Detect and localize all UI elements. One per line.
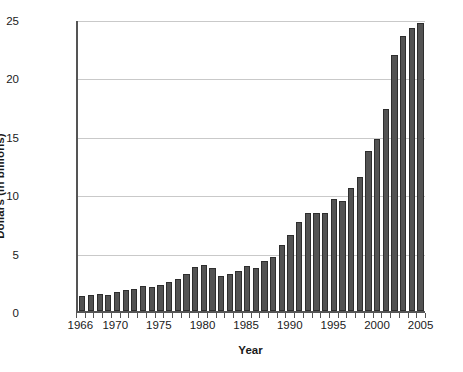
x-tick-label-2005: 2005 — [408, 319, 434, 331]
bar-cell — [173, 21, 182, 311]
bar-1990 — [287, 235, 293, 312]
x-tick-mark — [85, 313, 86, 318]
bar-cell — [338, 21, 347, 311]
bar-1979 — [192, 267, 198, 311]
y-tick-label-5: 5 — [0, 249, 19, 261]
bar-1995 — [331, 199, 337, 311]
x-tick-label-1966: 1966 — [68, 319, 94, 331]
x-tick-mark — [93, 313, 94, 318]
bar-1972 — [131, 289, 137, 311]
bar-1969 — [105, 295, 111, 311]
bar-cell — [286, 21, 295, 311]
bar-1974 — [149, 287, 155, 311]
bar-cell — [399, 21, 408, 311]
bar-2004 — [409, 28, 415, 311]
x-tick-mark — [399, 313, 400, 318]
bar-cell — [356, 21, 365, 311]
x-tick-mark — [346, 313, 347, 318]
bar-1980 — [201, 265, 207, 311]
x-tick-mark — [76, 313, 77, 318]
bar-1966 — [79, 296, 85, 311]
bar-2005 — [417, 23, 423, 311]
x-tick-label-1970: 1970 — [102, 319, 128, 331]
bar-1985 — [244, 266, 250, 311]
bar-1992 — [305, 213, 311, 311]
bar-1970 — [114, 292, 120, 311]
x-tick-mark — [277, 313, 278, 318]
bar-1967 — [88, 295, 94, 311]
bar-cell — [303, 21, 312, 311]
x-tick-mark — [242, 313, 243, 318]
x-tick-mark — [416, 313, 417, 318]
bar-cell — [225, 21, 234, 311]
x-tick-mark — [329, 313, 330, 318]
bar-cell — [382, 21, 391, 311]
y-tick-label-0: 0 — [0, 307, 19, 319]
bar-1984 — [235, 271, 241, 311]
x-tick-mark — [425, 313, 426, 318]
x-tick-mark — [181, 313, 182, 318]
bar-cell — [121, 21, 130, 311]
x-tick-mark — [381, 313, 382, 318]
bar-1968 — [97, 294, 103, 311]
bar-cell — [269, 21, 278, 311]
bar-1994 — [322, 213, 328, 311]
x-tick-mark — [355, 313, 356, 318]
bar-chart-figure: Dollars (in billions) 0510152025 1966197… — [0, 0, 463, 372]
bar-1991 — [296, 222, 302, 311]
bar-cell — [217, 21, 226, 311]
bar-1986 — [253, 268, 259, 311]
bar-cell — [182, 21, 191, 311]
x-tick-mark — [390, 313, 391, 318]
bar-2001 — [383, 109, 389, 311]
x-tick-label-1995: 1995 — [321, 319, 347, 331]
bar-cell — [408, 21, 417, 311]
x-tick-mark — [233, 313, 234, 318]
x-tick-mark — [338, 313, 339, 318]
bar-1981 — [209, 268, 215, 311]
bar-cell — [329, 21, 338, 311]
bar-cell — [277, 21, 286, 311]
bar-2002 — [391, 55, 397, 311]
y-tick-label-25: 25 — [0, 15, 19, 27]
bar-cell — [373, 21, 382, 311]
x-tick-mark — [312, 313, 313, 318]
x-tick-mark — [364, 313, 365, 318]
x-tick-mark — [137, 313, 138, 318]
bar-cell — [191, 21, 200, 311]
bar-1997 — [348, 188, 354, 311]
bar-cell — [156, 21, 165, 311]
bar-1982 — [218, 276, 224, 311]
x-tick-mark — [189, 313, 190, 318]
x-tick-mark — [146, 313, 147, 318]
x-tick-mark — [155, 313, 156, 318]
y-tick-label-15: 15 — [0, 132, 19, 144]
bar-1999 — [365, 151, 371, 311]
x-tick-mark — [224, 313, 225, 318]
x-axis-title: Year — [76, 344, 425, 356]
x-tick-mark — [259, 313, 260, 318]
x-tick-mark — [373, 313, 374, 318]
bar-1977 — [175, 279, 181, 311]
x-tick-mark — [172, 313, 173, 318]
bar-cell — [113, 21, 122, 311]
x-tick-mark — [128, 313, 129, 318]
x-tick-mark — [163, 313, 164, 318]
bar-cell — [87, 21, 96, 311]
bar-1976 — [166, 282, 172, 311]
bar-cell — [347, 21, 356, 311]
bar-cell — [104, 21, 113, 311]
bar-cell — [234, 21, 243, 311]
x-tick-label-1985: 1985 — [233, 319, 259, 331]
bar-1998 — [357, 177, 363, 311]
bar-cell — [312, 21, 321, 311]
bar-cell — [390, 21, 399, 311]
x-tick-mark — [207, 313, 208, 318]
x-tick-label-2000: 2000 — [364, 319, 390, 331]
bar-cell — [165, 21, 174, 311]
bar-series — [78, 21, 425, 311]
bar-1993 — [313, 213, 319, 311]
bar-1983 — [227, 274, 233, 311]
bar-cell — [364, 21, 373, 311]
y-tick-label-10: 10 — [0, 190, 19, 202]
